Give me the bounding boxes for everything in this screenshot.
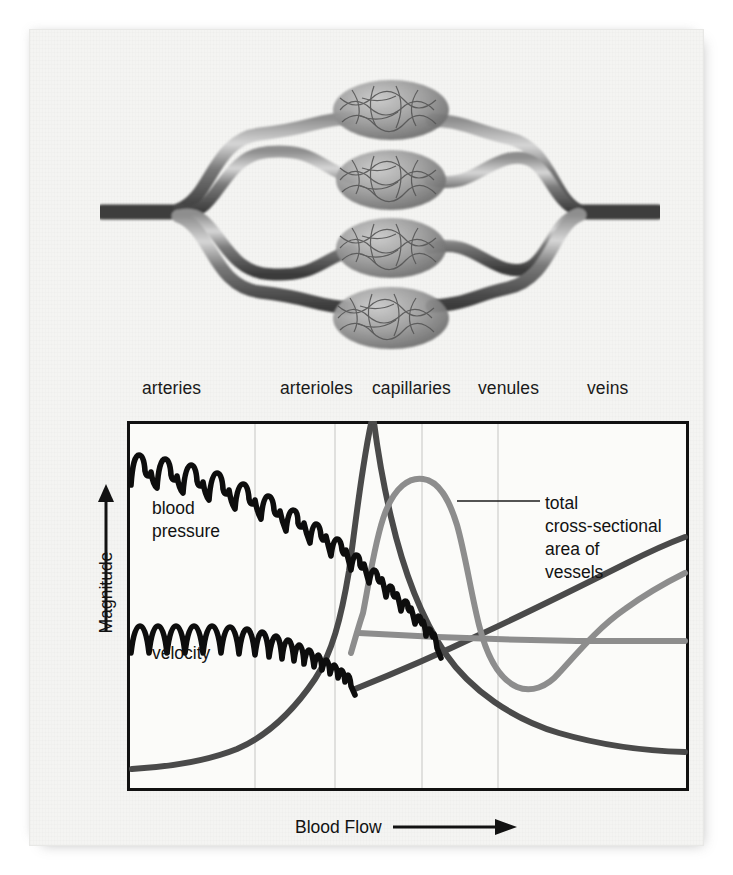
segment-label-arteries: arteries (142, 378, 201, 399)
x-axis-label: Blood Flow (295, 817, 382, 838)
label-blood-pressure: blood pressure (152, 497, 220, 543)
y-axis-label: Magnitude (96, 528, 117, 658)
y-axis-group: Magnitude (84, 482, 128, 742)
segment-label-veins: veins (587, 378, 628, 399)
chart-plot-area (127, 421, 689, 791)
label-total-cross-sectional-area: total cross-sectional area of vessels (545, 492, 662, 584)
blood-vessel-network-illustration (100, 48, 660, 378)
curve-flat-grey (359, 633, 685, 641)
segment-label-venules: venules (478, 378, 539, 399)
x-axis-group: Blood Flow (295, 812, 519, 842)
capillary-bed-3 (336, 218, 446, 278)
capillary-bed-1 (333, 80, 449, 140)
vessel-tubes (102, 118, 658, 308)
segment-label-arterioles: arterioles (280, 378, 353, 399)
capillary-bed-4 (333, 287, 449, 349)
label-velocity: velocity (152, 642, 210, 665)
chart-svg (127, 421, 689, 791)
curve-resistance-fall (373, 421, 685, 752)
capillary-bed-2 (336, 150, 446, 210)
segment-labels: arteries arterioles capillaries venules … (120, 378, 700, 404)
figure-root: arteries arterioles capillaries venules … (0, 0, 733, 875)
capillary-beds (333, 80, 449, 349)
chart-gridlines (255, 424, 498, 788)
segment-label-capillaries: capillaries (372, 378, 451, 399)
x-axis-arrow-icon (391, 817, 519, 837)
